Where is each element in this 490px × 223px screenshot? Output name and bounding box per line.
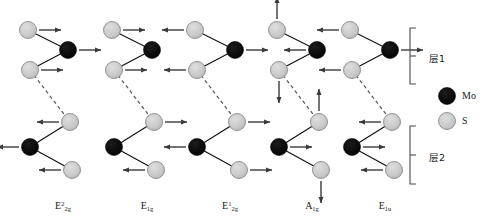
atom-s-layer2-e1u — [384, 114, 401, 131]
atom-mo-layer2-e1u — [344, 139, 361, 156]
atom-s-layer1-e1u — [342, 22, 359, 39]
atom-s-layer2-e2g-1 — [231, 162, 248, 179]
atom-s-layer1-e2g-1 — [187, 22, 204, 39]
atom-s-layer2-a1g — [313, 162, 330, 179]
atom-mo-layer1-e1g — [144, 42, 161, 59]
atom-s-layer2-a1g — [311, 114, 328, 131]
mode-label-a1g: A1g — [289, 200, 335, 212]
atom-s-layer1-e2g-2 — [20, 22, 37, 39]
atom-mo-layer2-e2g-1 — [189, 139, 206, 156]
legend-s-label: S — [462, 115, 468, 126]
mode-label-e1u: E1u — [362, 200, 408, 212]
figure-canvas: E22g E1g E12g A1g E1u 层1 层2 Mo S — [0, 0, 490, 223]
atom-s-layer1-e1u — [344, 62, 361, 79]
atom-mo-layer1-e2g-2 — [60, 42, 77, 59]
legend-atom-markers — [439, 88, 456, 130]
atom-s-layer1-a1g — [271, 62, 288, 79]
atom-s-layer2-e2g-2 — [62, 114, 79, 131]
legend-mo-swatch — [439, 88, 456, 105]
layer1-label: 层1 — [429, 51, 445, 65]
atom-mo-layer1-e1u — [382, 42, 399, 59]
atom-mo-layer2-e2g-2 — [22, 139, 39, 156]
mode-label-e2g-2: E22g — [40, 200, 86, 212]
atom-s-layer1-e1g — [104, 22, 121, 39]
atom-s-layer2-e1u — [386, 162, 403, 179]
atom-s-layer2-e2g-2 — [64, 162, 81, 179]
atom-mo-layer2-e1g — [106, 139, 123, 156]
layer2-label: 层2 — [429, 150, 445, 164]
atom-mo-layer1-a1g — [309, 42, 326, 59]
atom-s-layer1-e2g-1 — [189, 62, 206, 79]
atom-s-layer2-e1g — [148, 162, 165, 179]
atom-s-layer2-e1g — [146, 114, 163, 131]
atom-s-layer2-e2g-1 — [229, 114, 246, 131]
legend-s-swatch — [439, 113, 456, 130]
mode-label-e1g: E1g — [124, 200, 170, 212]
legend-mo-label: Mo — [462, 90, 476, 101]
atom-s-layer1-a1g — [269, 22, 286, 39]
mode-label-e2g-1: E12g — [207, 200, 253, 212]
atom-mo-layer1-e2g-1 — [227, 42, 244, 59]
atom-s-layer1-e1g — [106, 62, 123, 79]
atom-mo-layer2-a1g — [271, 139, 288, 156]
atom-s-layer1-e2g-2 — [22, 62, 39, 79]
vibration-diagram-svg — [0, 0, 490, 223]
molecule-columns — [0, 0, 423, 203]
layer-brackets — [410, 28, 416, 184]
